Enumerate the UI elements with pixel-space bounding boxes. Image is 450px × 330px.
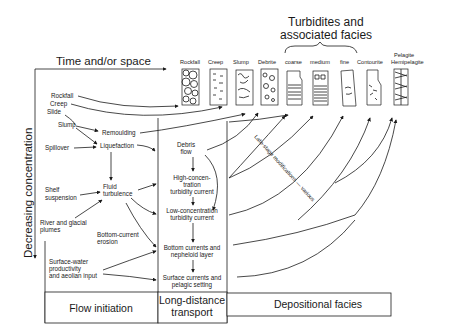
facies-pelagite-icon [394, 69, 408, 105]
turbidites-title-line2: associated facies [280, 28, 372, 42]
transport-low-line2: turbidity current [170, 214, 214, 222]
transport-debris-line2: flow [180, 148, 192, 155]
source-shelf-line1: Shelf [45, 186, 60, 193]
time-axis-label: Time and/or space [56, 55, 151, 67]
flow-sources: Rockfall Creep Slide Slump Spillover She… [40, 92, 97, 280]
turbidites-title-line1: Turbidites and [288, 15, 364, 29]
facies-columns [182, 69, 408, 106]
facies-debrite-icon [261, 69, 278, 105]
source-slide: Slide [47, 108, 61, 115]
facies-creep-icon [210, 69, 227, 105]
facies-label-coarse: coarse [285, 59, 302, 65]
flow-processes: Remoulding Liquefaction Fluid turbulence… [97, 129, 139, 245]
footer-long-distance-line1: Long-distance [159, 294, 225, 306]
facies-label-debrite: Debrite [258, 59, 276, 65]
facies-slump-icon [236, 70, 253, 105]
process-bottom-line2: erosion [97, 238, 118, 245]
facies-label-hemipelagite: Hemipelagite [391, 59, 424, 65]
facies-medium-icon [313, 71, 328, 105]
initiation-arrows [65, 96, 245, 280]
facies-label-rockfall: Rockfall [180, 59, 200, 65]
facies-fine-icon [341, 70, 356, 106]
source-surface-line1: Surface-water [49, 258, 88, 265]
process-fluid-line2: turbulence [103, 190, 133, 197]
facies-label-creep: Creep [208, 59, 223, 65]
transport-high-line3: turbidity current [170, 188, 214, 196]
facies-labels: Rockfall Creep Slump Debrite coarse medi… [180, 52, 424, 65]
transport-bottom-currents-line2: nepheloid layer [171, 251, 214, 259]
footer-depositional-label: Depositional facies [274, 298, 362, 310]
source-river-line2: plumes [40, 226, 60, 234]
process-remoulding: Remoulding [102, 129, 136, 137]
source-rockfall: Rockfall [51, 92, 73, 99]
process-bottom-line1: Bottom-current [97, 231, 139, 238]
footer-flow-initiation-label: Flow initiation [69, 302, 133, 314]
facies-label-contourite: Contourite [357, 59, 383, 65]
facies-label-fine: fine [340, 59, 349, 65]
transport-surface-currents-line1: Surface currents and [163, 274, 222, 281]
late-stage-annotation: Late-stage modifications — various [253, 134, 316, 203]
turbidites-brace [285, 42, 357, 53]
transport-processes: Debris flow High-concen- tration turbidi… [163, 141, 222, 289]
facies-rockfall-icon [182, 69, 199, 105]
concentration-axis-label: Decreasing concentration [22, 128, 34, 258]
transport-debris-line1: Debris [177, 141, 195, 148]
process-liquefaction: Liquefaction [100, 142, 134, 150]
depositional-arrows [207, 113, 396, 277]
footer-long-distance-line2: transport [171, 306, 213, 318]
source-creep: Creep [50, 100, 68, 108]
transport-low-line1: Low-concentration [166, 207, 218, 214]
source-spillover: Spillover [45, 144, 69, 152]
facies-coarse-icon [287, 71, 302, 105]
source-surface-line3: and aeolian input [49, 272, 97, 280]
facies-label-medium: medium [310, 59, 330, 65]
process-fluid-line1: Fluid [103, 183, 117, 190]
sediment-flow-diagram: Time and/or space Decreasing concentrati… [0, 0, 450, 330]
facies-label-slump: Slump [233, 59, 249, 65]
transport-high-line2: tration [183, 181, 201, 188]
source-shelf-line2: suspension [45, 194, 77, 202]
transport-bottom-currents-line1: Bottom currents and [164, 244, 221, 251]
facies-label-pelagite: Pelagite [394, 52, 414, 58]
transport-surface-currents-line2: pelagic setting [172, 281, 213, 289]
facies-contourite-icon [367, 70, 381, 105]
